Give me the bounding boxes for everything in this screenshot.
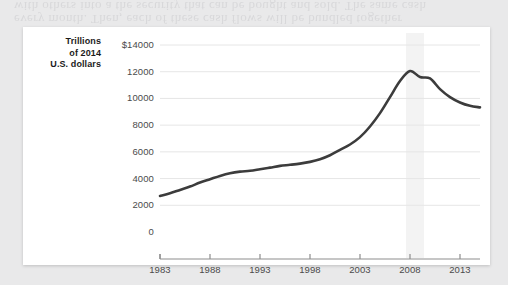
y-tick-label: 8000 — [94, 120, 154, 130]
x-tick-label: 2013 — [440, 265, 480, 275]
data-line — [160, 71, 480, 196]
y-tick-label: 4000 — [94, 174, 154, 184]
y-tick-label: 2000 — [94, 200, 154, 210]
x-tick-label: 1988 — [190, 265, 230, 275]
x-tick-label: 2008 — [390, 265, 430, 275]
x-tick-label: 2003 — [340, 265, 380, 275]
recession-shading — [406, 33, 424, 258]
bleed-line-1: with others into a the security that can… — [0, 0, 508, 13]
y-tick-label: 10000 — [94, 93, 154, 103]
line-chart: Trillionsof 2014U.S. dollars$14000120001… — [23, 27, 490, 265]
x-tick-label: 1998 — [290, 265, 330, 275]
y-tick-label: 6000 — [94, 147, 154, 157]
y-axis-title-line: U.S. dollars — [0, 59, 101, 71]
bleed-line-2: every month. Then, each of these cash fl… — [0, 13, 508, 26]
x-tick-label: 1993 — [240, 265, 280, 275]
page-bleed-through: with others into a the security that can… — [0, 0, 508, 26]
y-axis-title-line: of 2014 — [0, 48, 101, 60]
y-axis-title: Trillionsof 2014U.S. dollars — [0, 36, 101, 71]
y-tick-label: $14000 — [94, 40, 154, 50]
y-tick-label: 12000 — [94, 67, 154, 77]
y-axis-title-line: Trillions — [0, 36, 101, 48]
y-tick-label: 0 — [94, 227, 154, 237]
x-tick-label: 1983 — [140, 265, 180, 275]
chart-panel: Trillionsof 2014U.S. dollars$14000120001… — [23, 27, 490, 265]
